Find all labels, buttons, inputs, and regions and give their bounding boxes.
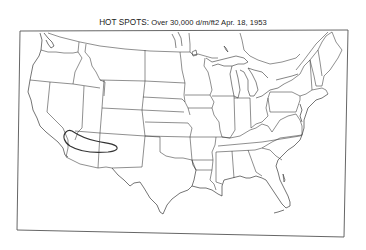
- map-frame: [17, 30, 348, 237]
- state-boundaries: [28, 32, 342, 214]
- us-state-map: [0, 0, 366, 250]
